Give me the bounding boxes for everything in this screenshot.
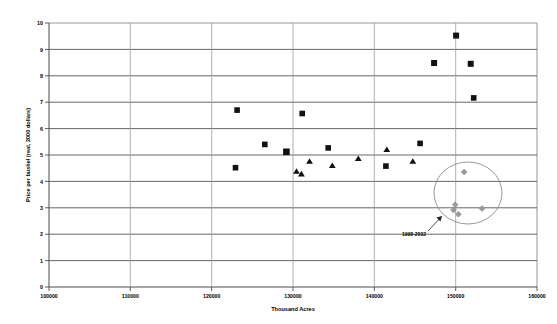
y-tick-label: 1 <box>40 258 43 264</box>
x-tick-label: 150000 <box>447 293 464 299</box>
y-tick-label: 6 <box>40 126 43 132</box>
scatter-plot: 10 9 8 7 6 5 4 3 2 1 0 100000 110000 120… <box>0 0 557 324</box>
x-tick-label: 140000 <box>366 293 383 299</box>
data-point-square <box>262 142 268 148</box>
x-axis-title: Thousand Acres <box>271 306 315 312</box>
data-point-square <box>471 95 477 101</box>
data-point-square <box>234 107 240 113</box>
x-tick-label: 110000 <box>122 293 139 299</box>
y-axis-tick-labels: 10 9 8 7 6 5 4 3 2 1 0 <box>37 20 43 290</box>
data-point-triangle <box>293 168 300 174</box>
x-axis-tick-labels: 100000 110000 120000 130000 140000 15000… <box>40 293 545 299</box>
y-tick-label: 7 <box>40 99 43 105</box>
data-point-diamond <box>452 202 458 208</box>
x-tick-label: 120000 <box>203 293 220 299</box>
y-tick-label: 0 <box>40 284 43 290</box>
x-axis-ticks <box>49 287 537 291</box>
data-point-square <box>299 111 305 117</box>
data-point-square <box>325 145 331 151</box>
data-point-square <box>233 165 239 171</box>
x-tick-label: 100000 <box>40 293 57 299</box>
y-tick-label: 4 <box>40 179 43 185</box>
data-point-triangle <box>383 147 390 153</box>
y-axis-title: Price per bushel (real, 2000 dollars) <box>25 108 31 202</box>
y-tick-label: 5 <box>40 152 43 158</box>
x-tick-label: 130000 <box>284 293 301 299</box>
data-point-square <box>453 33 459 39</box>
y-tick-label: 10 <box>37 20 43 26</box>
series-triangles <box>293 147 416 177</box>
y-axis-ticks <box>45 23 49 287</box>
data-point-square <box>417 141 423 147</box>
y-tick-label: 9 <box>40 47 43 53</box>
data-point-square <box>283 149 290 156</box>
series-squares <box>233 33 477 171</box>
x-tick-label: 160000 <box>528 293 545 299</box>
data-point-diamond <box>479 206 485 212</box>
data-point-square <box>468 61 474 67</box>
cluster-highlight-ellipse <box>434 162 502 224</box>
data-point-square <box>431 60 437 66</box>
data-point-diamond <box>461 169 467 175</box>
data-point-diamond <box>455 211 461 217</box>
y-tick-label: 8 <box>40 73 43 79</box>
annotation-label: 1998-2002 <box>402 231 426 237</box>
y-tick-label: 2 <box>40 231 43 237</box>
data-point-triangle <box>329 162 336 168</box>
data-point-triangle <box>355 156 362 162</box>
data-point-triangle <box>306 158 313 164</box>
data-point-triangle <box>409 158 416 164</box>
data-point-square <box>383 163 389 169</box>
y-tick-label: 3 <box>40 205 43 211</box>
chart-figure: 10 9 8 7 6 5 4 3 2 1 0 100000 110000 120… <box>0 0 557 324</box>
